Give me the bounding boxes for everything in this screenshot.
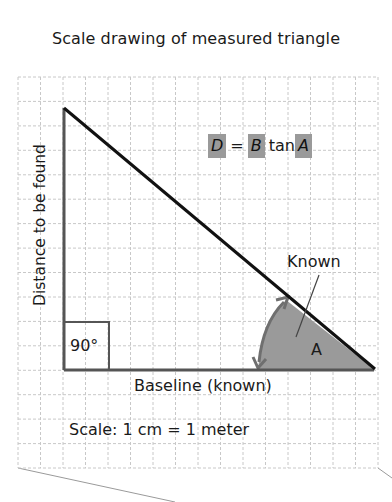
formula-d: D: [208, 134, 226, 158]
page-fold-line: [18, 468, 175, 502]
grid: [18, 77, 378, 468]
formula: D = B tan A: [208, 134, 312, 158]
vertical-side-label: Distance to be found: [31, 144, 49, 306]
page-fold-line: [378, 468, 392, 478]
scale-label: Scale: 1 cm = 1 meter: [69, 420, 249, 439]
formula-a: A: [295, 134, 312, 158]
formula-equals: =: [230, 134, 243, 158]
angle-a-label: A: [311, 340, 322, 359]
formula-tan: tan: [269, 134, 295, 158]
known-label: Known: [287, 252, 341, 271]
formula-b: B: [248, 134, 265, 158]
baseline-label: Baseline (known): [134, 376, 272, 395]
right-angle-label: 90°: [70, 336, 98, 355]
